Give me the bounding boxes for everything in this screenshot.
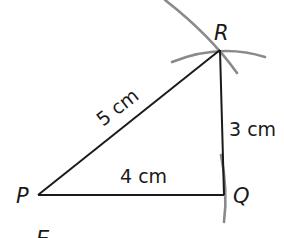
side-rq (220, 50, 224, 195)
triangle-construction-diagram: 5 cm 3 cm 4 cm P Q R E (0, 0, 284, 238)
vertex-q-label: Q (233, 184, 250, 208)
cutoff-e-label: E (36, 227, 50, 238)
side-pq-label: 4 cm (120, 165, 167, 187)
side-pr-label: 5 cm (92, 84, 143, 130)
vertex-p-label: P (16, 184, 29, 208)
construction-arc-small (172, 51, 265, 62)
vertex-r-label: R (214, 21, 229, 45)
side-rq-label: 3 cm (229, 118, 276, 140)
